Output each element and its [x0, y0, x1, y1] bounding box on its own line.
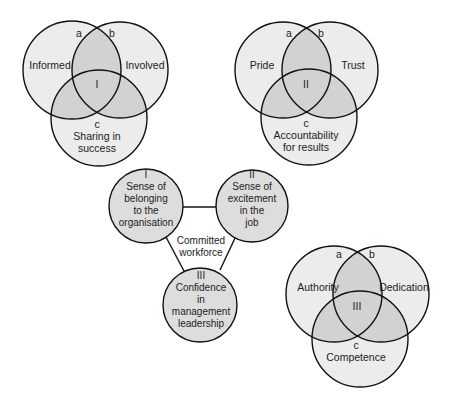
- key-c: c: [303, 117, 308, 129]
- node-excitement-line2: excitement: [228, 193, 277, 204]
- center-numeral: I: [96, 78, 99, 90]
- committed-workforce-triangle: I Sense of belonging to the organisation…: [109, 169, 288, 342]
- label-trust: Trust: [341, 59, 365, 71]
- label-involved: Involved: [125, 59, 164, 71]
- node-excitement-line1: Sense of: [232, 181, 272, 192]
- center-line1: Committed: [177, 235, 225, 246]
- key-b: b: [109, 27, 115, 39]
- label-pride: Pride: [250, 59, 275, 71]
- node-belonging-line3: to the: [133, 205, 158, 216]
- key-b: b: [318, 27, 324, 39]
- label-sharing-line2: success: [78, 142, 116, 154]
- node-excitement-numeral: II: [249, 169, 255, 180]
- label-informed: Informed: [29, 59, 71, 71]
- label-sharing-line1: Sharing in: [73, 130, 120, 142]
- label-competence: Competence: [326, 351, 386, 363]
- key-a: a: [336, 248, 342, 260]
- label-accountability-line1: Accountability: [274, 129, 340, 141]
- key-c: c: [353, 339, 358, 351]
- key-a: a: [286, 27, 292, 39]
- key-b: b: [369, 248, 375, 260]
- label-authority: Authority: [297, 281, 339, 293]
- venn-bottom-right: a b c Authority Dedication III Competenc…: [286, 246, 429, 387]
- node-belonging-line2: belonging: [124, 193, 167, 204]
- center-numeral: II: [303, 78, 309, 90]
- node-excitement-line4: job: [244, 217, 259, 228]
- label-dedication: Dedication: [379, 281, 429, 293]
- node-confidence-line3: management: [172, 306, 231, 317]
- label-accountability-line2: for results: [283, 141, 329, 153]
- key-c: c: [94, 118, 99, 130]
- venn-top-left: a b c Informed Involved I Sharing in suc…: [23, 21, 168, 166]
- node-confidence-line1: Confidence: [176, 282, 227, 293]
- center-line2: workforce: [178, 247, 223, 258]
- node-confidence-line2: in: [197, 294, 205, 305]
- node-excitement-line3: in the: [240, 205, 265, 216]
- node-belonging-numeral: I: [145, 169, 148, 180]
- diagram-canvas: a b c Informed Involved I Sharing in suc…: [0, 0, 450, 411]
- node-confidence-numeral: III: [197, 270, 205, 281]
- node-confidence-line4: leadership: [178, 318, 225, 329]
- key-a: a: [76, 27, 82, 39]
- node-belonging-line4: organisation: [119, 217, 173, 228]
- center-numeral: III: [353, 300, 362, 312]
- venn-top-right: a b c Pride Trust II Accountability for …: [235, 22, 378, 165]
- node-belonging-line1: Sense of: [126, 181, 166, 192]
